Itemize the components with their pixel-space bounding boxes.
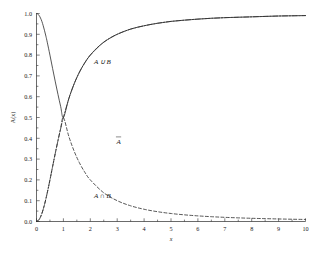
y-tick-label: 0.0 [24, 218, 32, 225]
x-tick-label: 7 [223, 225, 226, 232]
x-tick-label: 10 [302, 225, 308, 232]
annotation-1: A [115, 137, 121, 146]
x-tick-label: 8 [250, 225, 253, 232]
curve-series-0 [37, 14, 306, 118]
y-tick-label: 0.3 [24, 155, 32, 162]
tick-labels: 0.00.10.20.30.40.50.60.70.80.91.00123456… [24, 10, 308, 232]
chart-figure: 0.00.10.20.30.40.50.60.70.80.91.00123456… [0, 0, 323, 253]
x-tick-label: 1 [62, 225, 65, 232]
y-tick-label: 0.8 [24, 51, 32, 58]
chart-plot-area: 0.00.10.20.30.40.50.60.70.80.91.00123456… [0, 0, 323, 253]
x-tick-label: 5 [169, 225, 172, 232]
curve-annotations: A ∪ BAA ∩ B [93, 58, 121, 199]
x-tick-label: 3 [116, 225, 119, 232]
y-tick-label: 0.1 [24, 197, 32, 204]
x-tick-label: 4 [143, 225, 146, 232]
annotation-2: A ∩ B [93, 192, 112, 200]
axis-titles: xA(x) [10, 112, 173, 242]
x-tick-label: 6 [196, 225, 199, 232]
y-tick-label: 1.0 [24, 10, 32, 17]
x-tick-label: 2 [89, 225, 92, 232]
x-tick-label: 9 [277, 225, 280, 232]
curve-series-2 [37, 117, 306, 221]
annotation-0: A ∪ B [93, 58, 112, 66]
y-tick-label: 0.2 [24, 176, 32, 183]
axes [37, 14, 306, 222]
x-tick-label: 0 [35, 225, 38, 232]
y-tick-label: 0.7 [24, 72, 32, 79]
annotation-text: A [115, 138, 121, 146]
y-tick-label: 0.5 [24, 114, 32, 121]
y-tick-label: 0.6 [24, 93, 32, 100]
y-axis-title: A(x) [10, 112, 17, 123]
x-axis-title: x [169, 236, 173, 242]
y-tick-label: 0.9 [24, 31, 32, 38]
y-tick-label: 0.4 [24, 135, 32, 142]
data-curves [37, 14, 306, 222]
curve-series-1 [37, 16, 306, 222]
tick-marks [37, 14, 306, 222]
